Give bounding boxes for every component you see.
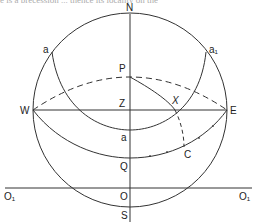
label-x: X: [171, 95, 179, 106]
label-a-left: a: [43, 44, 49, 55]
label-z: Z: [119, 98, 125, 109]
label-p: P: [119, 63, 126, 74]
label-a1-right: a₁: [209, 44, 219, 55]
arc-tick-marks: [150, 125, 213, 157]
label-s: S: [121, 210, 128, 221]
label-q: Q: [120, 161, 128, 172]
label-e: E: [230, 105, 237, 116]
label-w: W: [20, 105, 30, 116]
celestial-sphere-diagram: N S W E Z P X a a a₁ Q C O O₁ O₁: [0, 0, 255, 222]
label-o: O: [120, 191, 128, 202]
label-a-bottom: a: [121, 132, 127, 143]
label-c: C: [184, 149, 191, 160]
label-o1-left: O₁: [4, 191, 16, 202]
label-n: N: [126, 2, 133, 13]
parallel-arc-a: [52, 52, 206, 130]
label-o1-right: O₁: [239, 191, 251, 202]
dashed-arc-x-c: [175, 110, 184, 147]
